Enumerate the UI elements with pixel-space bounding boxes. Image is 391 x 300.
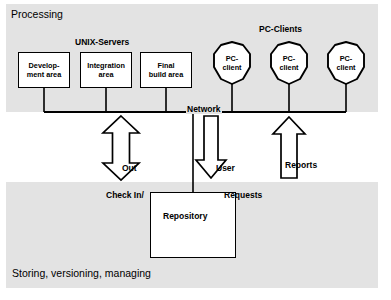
server-connectors [44,88,166,112]
node-development-area-label: Develop-ment area [19,61,69,79]
client-connectors [232,84,346,112]
processing-band-label: Processing [11,9,63,20]
node-pc-client-2-label: PC-client [279,54,298,72]
node-pc-client-2: PC-client [268,42,310,84]
check-in-out-flow-label: Out Check In/ [122,146,144,217]
node-pc-client-3-label: PC-client [336,54,355,72]
node-integration-area-label: Integrationarea [81,61,131,79]
user-requests-line1: User [216,164,262,173]
repository-label: Repository [163,212,207,221]
node-final-build-area-label: Finalbuild area [141,61,191,79]
node-pc-client-1-label: PC-client [222,54,241,72]
user-requests-line2: Requests [224,191,262,200]
node-integration-area: Integrationarea [80,52,132,88]
check-in-out-line2: Check In/ [106,191,144,200]
unix-servers-group-label: UNIX-Servers [75,38,129,47]
network-label: Network [186,105,222,114]
check-in-out-line1: Out [122,164,144,173]
user-requests-flow-label: User Requests [216,146,262,217]
reports-flow-label: Reports [285,161,317,170]
architecture-diagram: Develop-ment area Integrationarea Finalb… [0,0,391,300]
node-pc-client-3: PC-client [325,42,367,84]
storing-band-label: Storing, versioning, managing [12,268,151,279]
pc-clients-group-label: PC-Clients [259,25,302,34]
node-pc-client-1: PC-client [211,42,253,84]
node-final-build-area: Finalbuild area [140,52,192,88]
node-development-area: Develop-ment area [18,52,70,88]
